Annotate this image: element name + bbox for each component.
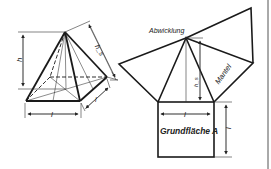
net-slant-label: h_s xyxy=(193,77,199,87)
base-side-dimension xyxy=(81,79,110,111)
height-dimension xyxy=(18,32,66,89)
mantel-label: Mantel xyxy=(213,62,233,86)
base-side-label: l xyxy=(95,96,97,103)
pyramid-3d xyxy=(26,32,107,101)
net-base-h-label: l xyxy=(184,110,186,119)
pyramid-diagram: h h_s l l h_ xyxy=(0,0,271,169)
base-front-label: l xyxy=(51,110,53,119)
base-area-label: Grundfläche A xyxy=(160,126,218,136)
base-front-dimension xyxy=(25,103,81,118)
height-label: h xyxy=(15,57,24,62)
net-title: Abwicklung xyxy=(148,27,185,35)
